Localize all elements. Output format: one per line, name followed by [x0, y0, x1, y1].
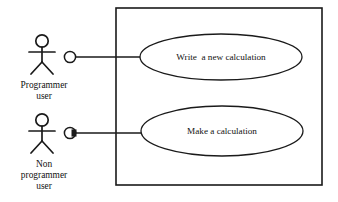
diagram-canvas: Programmer user Non programmer user	[0, 0, 338, 202]
actor-non-programmer-user[interactable]: Non programmer user	[21, 114, 68, 191]
actor-label-line-2: user	[36, 91, 52, 101]
use-case-diagram: Programmer user Non programmer user	[0, 0, 338, 202]
actor-label-line-1: Programmer	[21, 80, 69, 90]
actor-label-line-3: user	[36, 181, 52, 191]
actor-label-line-1: Non	[36, 159, 52, 169]
actor-right-leg-line	[42, 141, 53, 153]
actor-label-line-2: programmer	[21, 170, 68, 180]
use-case-label: Write a new calculation	[176, 52, 266, 62]
actor-head-icon	[36, 114, 48, 126]
use-case-make-a-calculation[interactable]: Make a calculation	[141, 106, 303, 156]
association-endpoint-circle-icon	[64, 51, 75, 62]
use-case-label: Make a calculation	[187, 126, 257, 136]
actor-head-icon	[36, 35, 48, 47]
actor-right-leg-line	[42, 62, 53, 74]
use-case-write-a-new-calculation[interactable]: Write a new calculation	[140, 34, 302, 80]
actor-left-leg-line	[31, 62, 42, 74]
actor-programmer-user[interactable]: Programmer user	[21, 35, 69, 101]
actor-left-leg-line	[31, 141, 42, 153]
